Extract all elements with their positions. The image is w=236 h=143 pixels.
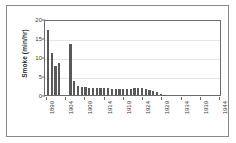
bar xyxy=(126,89,128,95)
x-tick-mark xyxy=(46,97,47,100)
plot-area xyxy=(44,20,221,96)
x-tick-label: 1914 xyxy=(107,101,113,114)
x-tick-label: 1909 xyxy=(87,101,93,114)
bar xyxy=(115,89,117,95)
bar xyxy=(58,63,60,95)
chart-figure: Smoke (min/hr) 05101520 1899190419091914… xyxy=(0,0,236,143)
bar xyxy=(103,88,105,95)
bar xyxy=(160,94,162,95)
bar xyxy=(96,88,98,95)
bar xyxy=(81,87,83,95)
x-tick-mark xyxy=(123,97,124,100)
bar xyxy=(77,86,79,95)
x-tick-mark xyxy=(65,97,66,100)
bar xyxy=(92,88,94,95)
x-tick-mark xyxy=(142,97,143,100)
x-tick-mark xyxy=(161,97,162,100)
y-tick-label: 20 xyxy=(16,17,42,23)
y-tick-label: 5 xyxy=(16,74,42,80)
bar xyxy=(84,87,86,95)
bar xyxy=(69,44,71,95)
bar xyxy=(137,88,139,95)
bar xyxy=(99,88,101,95)
bar xyxy=(47,30,49,95)
x-tick-mark xyxy=(84,97,85,100)
bar-slot xyxy=(215,21,219,95)
bar xyxy=(145,89,147,95)
x-tick-label: 1929 xyxy=(164,101,170,114)
bar xyxy=(118,89,120,95)
bar xyxy=(88,88,90,95)
x-tick-mark xyxy=(181,97,182,100)
x-tick-label: 1904 xyxy=(68,101,74,114)
bar xyxy=(54,66,56,95)
x-tick-label: 1934 xyxy=(184,101,190,114)
bar xyxy=(130,89,132,95)
bar xyxy=(152,91,154,95)
x-tick-label: 1919 xyxy=(126,101,132,114)
y-tick-label: 10 xyxy=(16,55,42,61)
x-tick-mark xyxy=(219,97,220,100)
figure-border: Smoke (min/hr) 05101520 1899190419091914… xyxy=(6,5,229,137)
x-tick-label: 1899 xyxy=(49,101,55,114)
x-tick-label: 1924 xyxy=(145,101,151,114)
bar xyxy=(51,53,53,95)
bar xyxy=(73,81,75,95)
y-axis-ticks: 05101520 xyxy=(12,20,42,96)
x-tick-label: 1944 xyxy=(222,101,228,114)
x-tick-mark xyxy=(104,97,105,100)
bar xyxy=(133,88,135,95)
bar xyxy=(122,89,124,95)
y-tick-label: 0 xyxy=(16,93,42,99)
bar xyxy=(111,89,113,95)
x-tick-mark xyxy=(200,97,201,100)
x-tick-label: 1939 xyxy=(203,101,209,114)
bar xyxy=(156,92,158,95)
bar-series xyxy=(45,21,220,95)
y-tick-label: 15 xyxy=(16,36,42,42)
bar xyxy=(107,88,109,95)
x-axis-ticks: 1899190419091914191919241929193419391944 xyxy=(44,97,221,141)
bar xyxy=(148,90,150,95)
bar xyxy=(141,88,143,95)
